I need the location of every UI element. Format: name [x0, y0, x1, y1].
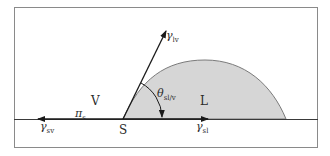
gamma-lv-label: γlv — [166, 30, 179, 44]
contact-point-label: S — [119, 124, 127, 136]
gamma-sv-label: γsv — [40, 121, 54, 135]
gamma-sl-label: γsl — [196, 121, 208, 135]
theta-label: θsl/v — [157, 88, 176, 102]
spreading-pressure-label: πs — [75, 108, 86, 122]
contact-angle-diagram: γlv θsl/v V L S πs γsv γsl — [0, 0, 330, 156]
vapor-label: V — [91, 95, 100, 107]
liquid-label: L — [200, 95, 208, 107]
